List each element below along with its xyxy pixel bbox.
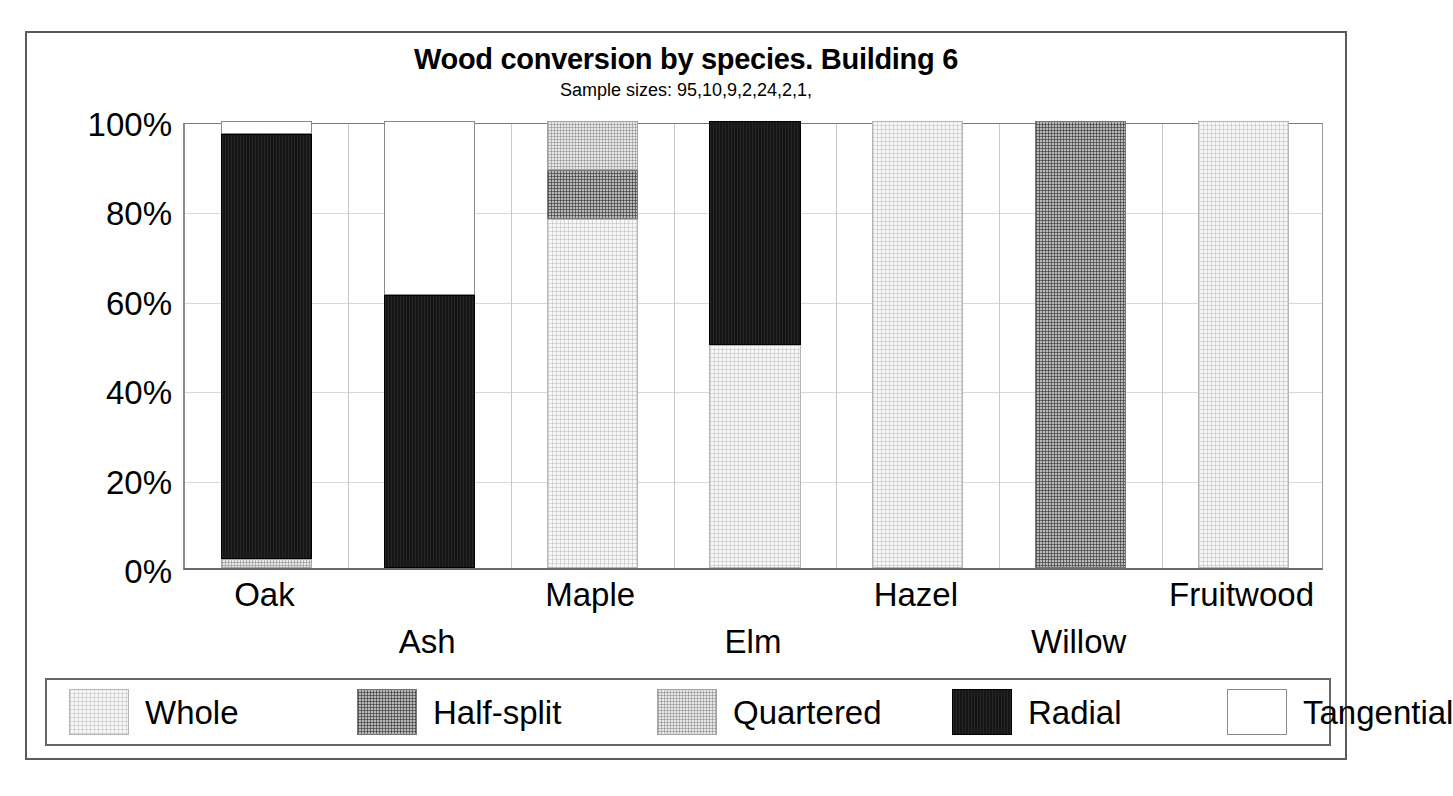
y-axis-tick-label: 20% bbox=[106, 465, 172, 498]
legend-item-whole[interactable]: Whole bbox=[69, 680, 239, 744]
chart-legend: WholeHalf-splitQuarteredRadialTangential bbox=[45, 678, 1331, 746]
category-gridline bbox=[511, 124, 512, 568]
legend-label: Tangential bbox=[1303, 696, 1453, 729]
x-axis-tick-label: Elm bbox=[725, 625, 782, 658]
category-gridline bbox=[999, 124, 1000, 568]
legend-label: Whole bbox=[145, 696, 239, 729]
legend-item-tangential[interactable]: Tangential bbox=[1227, 680, 1453, 744]
y-axis-tick-label: 40% bbox=[106, 376, 172, 409]
bar-segment-half[interactable] bbox=[1035, 121, 1126, 568]
legend-label: Radial bbox=[1028, 696, 1122, 729]
y-axis-tick-label: 80% bbox=[106, 197, 172, 230]
legend-item-quartered[interactable]: Quartered bbox=[657, 680, 882, 744]
legend-swatch-quartered bbox=[657, 689, 717, 735]
chart-subtitle: Sample sizes: 95,10,9,2,24,2,1, bbox=[27, 80, 1345, 101]
bar-segment-radial[interactable] bbox=[221, 134, 312, 559]
bar-segment-tangential[interactable] bbox=[384, 121, 475, 295]
legend-label: Quartered bbox=[733, 696, 882, 729]
stacked-bar[interactable] bbox=[221, 124, 312, 568]
bar-column[interactable] bbox=[547, 124, 638, 568]
category-gridline bbox=[348, 124, 349, 568]
legend-swatch-radial bbox=[952, 689, 1012, 735]
chart-title: Wood conversion by species. Building 6 bbox=[27, 43, 1345, 76]
stacked-bar[interactable] bbox=[1035, 124, 1126, 568]
bar-column[interactable] bbox=[1198, 124, 1289, 568]
stacked-bar[interactable] bbox=[1198, 124, 1289, 568]
x-axis-tick-label: Maple bbox=[545, 578, 635, 611]
stacked-bar[interactable] bbox=[384, 124, 475, 568]
bar-segment-radial[interactable] bbox=[384, 295, 475, 568]
stacked-bar[interactable] bbox=[872, 124, 963, 568]
legend-swatch-tangential bbox=[1227, 689, 1287, 735]
y-axis-tick-label: 100% bbox=[88, 108, 172, 141]
bar-segment-half[interactable] bbox=[547, 170, 638, 219]
bar-segment-whole[interactable] bbox=[547, 219, 638, 568]
bar-segment-tangential[interactable] bbox=[221, 121, 312, 134]
bar-segment-quartered[interactable] bbox=[547, 121, 638, 170]
bar-segment-radial[interactable] bbox=[709, 121, 800, 345]
bar-segment-whole[interactable] bbox=[872, 121, 963, 568]
bar-column[interactable] bbox=[221, 124, 312, 568]
legend-swatch-half bbox=[357, 689, 417, 735]
y-axis-tick-label: 60% bbox=[106, 286, 172, 319]
x-axis-tick-label: Willow bbox=[1031, 625, 1126, 658]
stacked-bar[interactable] bbox=[709, 124, 800, 568]
bar-column[interactable] bbox=[1035, 124, 1126, 568]
legend-label: Half-split bbox=[433, 696, 561, 729]
bar-segment-quartered[interactable] bbox=[221, 559, 312, 568]
bar-column[interactable] bbox=[709, 124, 800, 568]
bar-column[interactable] bbox=[872, 124, 963, 568]
bar-segment-whole[interactable] bbox=[1198, 121, 1289, 568]
chart-frame: Wood conversion by species. Building 6 S… bbox=[25, 31, 1347, 760]
category-gridline bbox=[674, 124, 675, 568]
y-axis-tick-label: 0% bbox=[124, 555, 172, 588]
x-axis-tick-label: Oak bbox=[234, 578, 295, 611]
legend-item-half[interactable]: Half-split bbox=[357, 680, 561, 744]
bar-column[interactable] bbox=[384, 124, 475, 568]
legend-item-radial[interactable]: Radial bbox=[952, 680, 1122, 744]
x-axis-tick-label: Ash bbox=[399, 625, 456, 658]
legend-swatch-whole bbox=[69, 689, 129, 735]
category-gridline bbox=[1162, 124, 1163, 568]
stacked-bar[interactable] bbox=[547, 124, 638, 568]
category-gridline bbox=[836, 124, 837, 568]
plot-area: 0%20%40%60%80%100% bbox=[183, 123, 1323, 570]
bar-segment-whole[interactable] bbox=[709, 345, 800, 569]
x-axis-tick-label: Fruitwood bbox=[1169, 578, 1314, 611]
x-axis-tick-label: Hazel bbox=[874, 578, 958, 611]
